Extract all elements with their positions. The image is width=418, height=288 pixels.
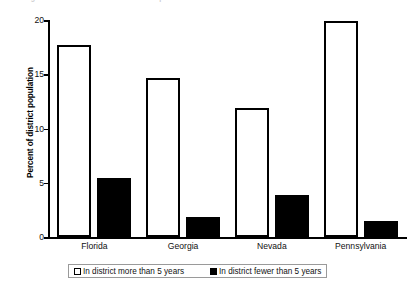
cut-off-caption-sliver: figure continues above the visible crop — [26, 0, 406, 3]
legend-item-open: In district more than 5 years — [74, 267, 184, 276]
bar-nevada-series1 — [235, 108, 269, 237]
y-axis-tick-label: 20 — [34, 16, 44, 25]
y-axis-tick-mark — [44, 183, 48, 185]
x-axis-label-pennsylvania: Pennsylvania — [316, 241, 405, 251]
bar-georgia-series1 — [146, 78, 180, 237]
legend-label-open: In district more than 5 years — [83, 267, 184, 276]
bar-florida-series1 — [57, 45, 91, 237]
legend-swatch-open-square-icon — [74, 268, 81, 275]
y-axis-tick-label: 15 — [34, 70, 44, 79]
chart-legend: In district more than 5 years In distric… — [68, 264, 327, 278]
bar-pennsylvania-series2 — [364, 221, 398, 237]
y-axis-tick-label: 10 — [34, 124, 44, 133]
y-axis-tick-label: 5 — [39, 178, 44, 187]
y-axis-title: Percent of district population — [26, 33, 35, 213]
x-axis-label-florida: Florida — [50, 241, 139, 251]
bar-chart: figure continues above the visible crop … — [0, 0, 418, 288]
y-axis-tick-mark — [44, 129, 48, 131]
bar-nevada-series2 — [275, 195, 309, 237]
x-axis-label-georgia: Georgia — [139, 241, 228, 251]
bar-florida-series2 — [97, 178, 131, 237]
bars-layer — [50, 20, 405, 237]
x-axis-category-labels: FloridaGeorgiaNevadaPennsylvania — [50, 241, 405, 255]
x-axis-line — [48, 237, 407, 239]
legend-item-filled: In district fewer than 5 years — [210, 267, 321, 276]
y-axis-tick-mark — [44, 74, 48, 76]
y-axis-tick-mark — [44, 20, 48, 22]
y-axis-tick-label: 0 — [39, 233, 44, 242]
bar-pennsylvania-series1 — [324, 21, 358, 237]
x-axis-label-nevada: Nevada — [228, 241, 317, 251]
legend-label-filled: In district fewer than 5 years — [219, 267, 321, 276]
bar-georgia-series2 — [186, 217, 220, 237]
y-axis-tick-mark — [44, 237, 48, 239]
plot-area: 05101520 — [48, 20, 405, 237]
legend-swatch-filled-square-icon — [210, 268, 217, 275]
